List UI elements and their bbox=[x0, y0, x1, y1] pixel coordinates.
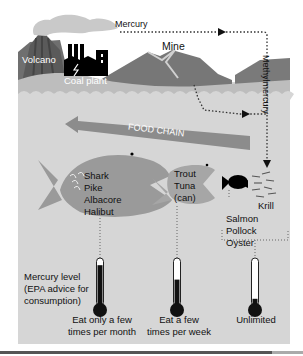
mercury-food-chain-diagram: Volcano Coal plant Mine Mercury Methylme… bbox=[0, 0, 303, 356]
bottom-divider-light bbox=[272, 351, 303, 354]
coal-plant-label: Coal plant bbox=[64, 75, 107, 87]
thermometer-label-weekly: Eat a few times per week bbox=[144, 314, 214, 338]
mercury-level-legend: Mercury level (EPA advice for consumptio… bbox=[24, 271, 89, 307]
thermometer-label-monthly: Eat only a few times per month bbox=[66, 314, 138, 338]
thermometer-icon bbox=[93, 258, 107, 317]
thermometer-icon bbox=[248, 258, 262, 317]
methylmercury-label: Methylmercury bbox=[260, 55, 272, 114]
large-fish-names: Shark Pike Albacore Halibut bbox=[84, 170, 122, 218]
volcano-label: Volcano bbox=[22, 54, 56, 66]
bottom-divider bbox=[0, 351, 272, 354]
thermometer-icon bbox=[170, 258, 184, 317]
thermometer-label-unlimited: Unlimited bbox=[226, 314, 286, 326]
mine-label: Mine bbox=[162, 40, 185, 52]
krill-label: Krill bbox=[258, 200, 274, 212]
medium-fish-names: Trout Tuna (can) bbox=[174, 168, 196, 204]
mercury-label: Mercury bbox=[115, 18, 148, 30]
small-fish-names: Salmon Pollock Oyster bbox=[226, 213, 258, 249]
